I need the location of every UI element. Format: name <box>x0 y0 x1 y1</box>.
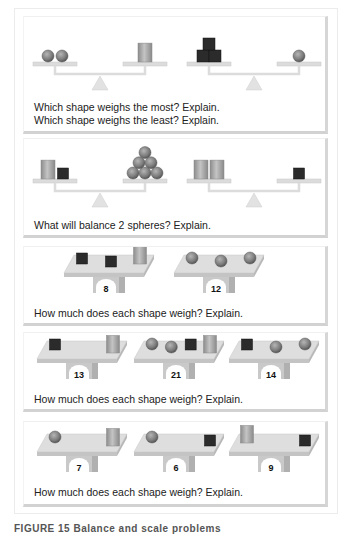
question-text: What will balance 2 spheres? Explain. <box>34 219 211 232</box>
cylinder-shape <box>41 160 55 179</box>
scale-pan-right <box>277 179 321 183</box>
cube-shape <box>203 38 215 50</box>
scale-pan-left <box>33 62 77 66</box>
scale-pan-left <box>187 179 231 183</box>
cube-shape <box>185 339 196 350</box>
platform-edge <box>37 452 117 456</box>
scale-beam <box>209 66 299 74</box>
fulcrum-triangle <box>92 76 108 90</box>
question-text: How much does each shape weigh? Explain. <box>34 307 243 320</box>
weight-value: 8 <box>103 284 108 294</box>
platform-edge <box>174 273 254 277</box>
cylinder-shape <box>204 335 217 353</box>
platform-edge <box>37 359 117 363</box>
question-text: Which shape weighs the least? Explain. <box>34 114 219 127</box>
platform-edge <box>229 452 309 456</box>
platform-edge <box>134 359 214 363</box>
question-text: Which shape weighs the most? Explain. <box>34 101 220 114</box>
scale-beam <box>209 183 299 191</box>
platform-base-side <box>92 456 98 472</box>
panel-platform-2: 132114 How much does each shape weigh? E… <box>23 332 328 412</box>
sphere-shape <box>299 338 311 350</box>
cylinder-shape <box>210 160 224 179</box>
sphere-shape <box>139 167 151 179</box>
sphere-shape <box>133 157 145 169</box>
cube-shape <box>106 256 117 267</box>
platform-edge <box>229 359 309 363</box>
weight-value: 7 <box>76 463 81 473</box>
sphere-shape <box>293 50 305 62</box>
fulcrum-triangle <box>92 193 108 207</box>
weight-value: 13 <box>74 370 84 380</box>
sphere-shape <box>146 431 158 443</box>
cube-shape <box>294 168 305 179</box>
cylinder-shape <box>107 428 120 446</box>
cylinder-shape <box>241 425 254 443</box>
weight-value: 21 <box>171 370 181 380</box>
sphere-shape <box>56 50 68 62</box>
sphere-shape <box>49 431 61 443</box>
sphere-shape <box>146 338 158 350</box>
figure-caption: FIGURE 15 Balance and scale problems <box>14 523 221 534</box>
cube-shape <box>205 435 216 446</box>
fulcrum-triangle <box>246 193 262 207</box>
platform-base-side <box>92 363 98 379</box>
sphere-shape <box>127 167 139 179</box>
sphere-shape <box>186 252 198 264</box>
weight-value: 14 <box>266 370 276 380</box>
cube-shape <box>50 339 61 350</box>
weight-value: 6 <box>173 463 178 473</box>
sphere-shape <box>270 341 282 353</box>
sphere-shape <box>151 167 163 179</box>
sphere-shape <box>165 341 177 353</box>
scale-pan-left <box>187 62 231 66</box>
scale-pan-right <box>123 62 167 66</box>
scale-beam <box>55 183 145 191</box>
sphere-shape <box>244 252 256 264</box>
scale-beam <box>55 66 145 74</box>
question-text: How much does each shape weigh? Explain. <box>34 486 243 499</box>
sphere-shape <box>145 157 157 169</box>
platform-edge <box>134 452 214 456</box>
cube-shape <box>58 168 69 179</box>
platform-base-side <box>119 277 125 293</box>
scale-pan-right <box>123 179 167 183</box>
scale-pan-left <box>33 179 77 183</box>
panel-balance-1: Which shape weighs the most? Explain. Wh… <box>23 16 328 134</box>
scale-pan-right <box>277 62 321 66</box>
platform-edge <box>64 273 144 277</box>
platform-base-side <box>229 277 235 293</box>
question-text: How much does each shape weigh? Explain. <box>34 393 243 406</box>
cube-shape <box>77 253 88 264</box>
cube-shape <box>300 435 311 446</box>
fulcrum-triangle <box>246 76 262 90</box>
cylinder-shape <box>138 43 152 62</box>
cube-shape <box>209 50 221 62</box>
cylinder-shape <box>134 247 147 264</box>
cube-shape <box>197 50 209 62</box>
panel-balance-2: What will balance 2 spheres? Explain. <box>23 138 328 238</box>
weight-value: 9 <box>268 463 273 473</box>
platform-base-side <box>284 363 290 379</box>
cylinder-shape <box>107 335 120 353</box>
sphere-shape <box>139 147 151 159</box>
platform-base-side <box>189 363 195 379</box>
platform-base-side <box>284 456 290 472</box>
sphere-shape <box>42 50 54 62</box>
platform-base-side <box>189 456 195 472</box>
cube-shape <box>242 339 253 350</box>
weight-value: 12 <box>211 284 221 294</box>
cylinder-shape <box>194 160 208 179</box>
sphere-shape <box>215 255 227 267</box>
panel-platform-3: 769 How much does each shape weigh? Expl… <box>23 421 328 507</box>
panel-platform-1: 812 How much does each shape weigh? Expl… <box>23 246 328 326</box>
